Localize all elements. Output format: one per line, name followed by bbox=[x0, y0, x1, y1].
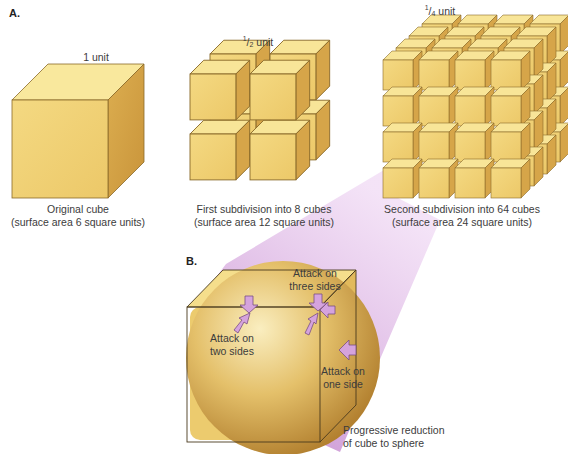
sixty-four-cube-caption: Second subdivision into 64 cubes (surfac… bbox=[384, 203, 540, 228]
eight-cube-subdivision bbox=[190, 40, 330, 180]
annotation-one-side: Attack on one side bbox=[321, 365, 365, 390]
annotation-two-sides: Attack on two sides bbox=[210, 332, 254, 357]
panel-b-caption: Progressive reduction of cube to sphere bbox=[343, 424, 445, 449]
original-cube-dimension: 1 unit bbox=[83, 51, 109, 64]
sixty-four-cube-subdivision bbox=[383, 15, 568, 198]
annotation-three-sides: Attack on three sides bbox=[289, 267, 340, 292]
original-cube-caption: Original cube (surface area 6 square uni… bbox=[11, 203, 145, 228]
panel-a-label: A. bbox=[9, 7, 20, 19]
eight-cube-dimension: 1/2 unit bbox=[243, 33, 274, 52]
eight-cube-caption: First subdivision into 8 cubes (surface … bbox=[194, 203, 334, 228]
sixty-four-cube-dimension: 1/4 unit bbox=[425, 2, 456, 21]
panel-b-label: B. bbox=[186, 255, 197, 267]
original-cube bbox=[12, 64, 144, 198]
